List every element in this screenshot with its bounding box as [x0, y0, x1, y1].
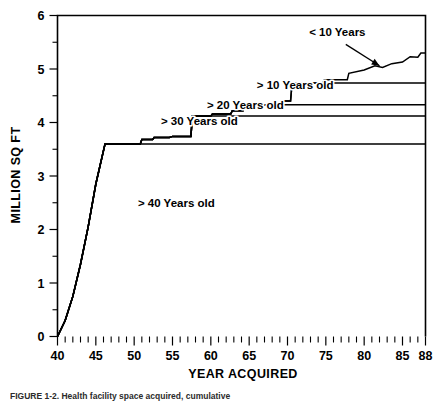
chart-figure: 0123456 4045505560657075808588 < 10 Year… — [0, 0, 441, 402]
y-tick-label: 6 — [38, 9, 45, 23]
x-tick-label: 55 — [166, 349, 180, 363]
annotation-arrowhead — [371, 59, 379, 66]
y-tick-label: 3 — [38, 170, 45, 184]
x-tick-label: 85 — [396, 349, 410, 363]
figure-caption: FIGURE 1-2. Health facility space acquir… — [10, 391, 430, 402]
series-curve — [58, 53, 426, 337]
chart-canvas: 0123456 4045505560657075808588 < 10 Year… — [0, 0, 441, 402]
x-axis-title: YEAR ACQUIRED — [188, 367, 298, 381]
data-series-layer — [58, 53, 426, 337]
x-axis-tick-labels: 4045505560657075808588 — [51, 349, 433, 363]
x-tick-label: 65 — [242, 349, 256, 363]
x-tick-label: 88 — [419, 349, 433, 363]
series-label: > 40 Years old> 40 Years old — [138, 197, 215, 209]
annotation-text: < 10 Years — [309, 26, 365, 38]
y-tick-label: 1 — [38, 277, 45, 291]
series-curve — [58, 105, 426, 337]
x-tick-label: 70 — [281, 349, 295, 363]
y-axis-ticks — [50, 16, 58, 337]
y-tick-label: 0 — [38, 330, 45, 344]
series-label-text: > 20 Years old — [207, 99, 284, 111]
series-label-text: > 40 Years old — [138, 197, 215, 209]
series-curve — [58, 144, 426, 337]
x-tick-label: 80 — [357, 349, 371, 363]
x-tick-label: 45 — [89, 349, 103, 363]
x-tick-label: 60 — [204, 349, 218, 363]
series-label-text: > 10 Years old — [257, 79, 334, 91]
axis-frame — [58, 16, 426, 337]
series-label-text: > 30 Years old — [161, 115, 238, 127]
x-tick-label: 40 — [51, 349, 65, 363]
y-tick-label: 5 — [38, 63, 45, 77]
series-label: > 20 Years old> 20 Years old — [207, 99, 284, 111]
x-axis-ticks — [58, 337, 426, 346]
plot-frame — [58, 16, 426, 337]
y-tick-label: 2 — [38, 223, 45, 237]
y-axis-title: MILLION SQ FT — [9, 127, 23, 224]
x-tick-label: 75 — [319, 349, 333, 363]
x-tick-label: 50 — [127, 349, 141, 363]
series-label: > 10 Years old> 10 Years old — [257, 79, 334, 91]
series-curve — [58, 83, 426, 337]
y-tick-label: 4 — [38, 116, 45, 130]
annotation-layer: < 10 Years< 10 Years — [309, 26, 379, 66]
series-inline-labels: < 10 Years< 10 Years> 10 Years old> 10 Y… — [138, 26, 366, 209]
series-curve — [58, 116, 426, 336]
series-label: > 30 Years old> 30 Years old — [161, 115, 238, 127]
y-axis-tick-labels: 0123456 — [38, 9, 45, 344]
